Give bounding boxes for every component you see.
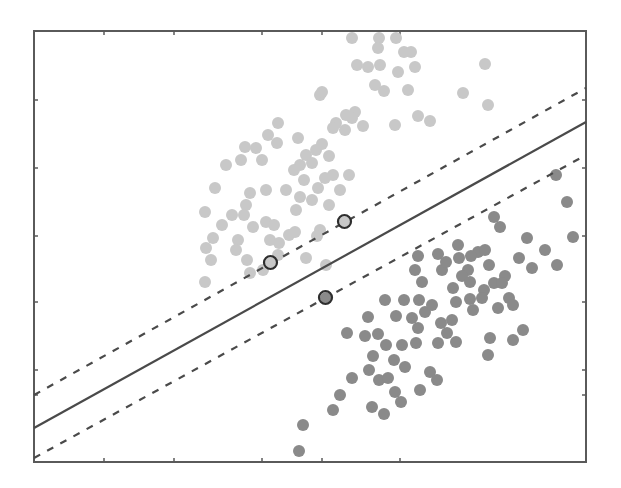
data-point — [239, 141, 251, 153]
data-point — [465, 250, 477, 262]
data-point — [339, 124, 351, 136]
data-point — [378, 85, 390, 97]
data-point — [238, 209, 250, 221]
data-point — [200, 242, 212, 254]
data-point — [362, 311, 374, 323]
data-point — [396, 339, 408, 351]
data-point — [482, 99, 494, 111]
data-point — [293, 445, 305, 457]
data-point — [323, 150, 335, 162]
data-point — [268, 219, 280, 231]
data-point — [316, 86, 328, 98]
data-point — [244, 187, 256, 199]
data-point — [366, 401, 378, 413]
margin-upper — [34, 88, 586, 395]
data-point — [346, 32, 358, 44]
data-point — [378, 408, 390, 420]
data-point — [452, 239, 464, 251]
data-point — [483, 259, 495, 271]
data-point — [357, 120, 369, 132]
data-point — [297, 419, 309, 431]
data-point — [334, 184, 346, 196]
class-light-points — [199, 32, 494, 288]
data-point — [409, 61, 421, 73]
data-point — [440, 256, 452, 268]
svm-scatter-chart — [0, 0, 621, 488]
data-point — [507, 299, 519, 311]
data-point — [431, 374, 443, 386]
data-point — [482, 349, 494, 361]
data-point — [539, 244, 551, 256]
data-point — [216, 219, 228, 231]
data-point — [359, 330, 371, 342]
data-point — [327, 404, 339, 416]
data-point — [372, 328, 384, 340]
data-point — [323, 199, 335, 211]
data-point — [388, 354, 400, 366]
plot-frame — [34, 31, 586, 462]
data-point — [412, 110, 424, 122]
data-point — [273, 237, 285, 249]
data-point — [272, 117, 284, 129]
data-point — [406, 312, 418, 324]
data-point — [412, 322, 424, 334]
data-point — [424, 115, 436, 127]
data-point — [395, 396, 407, 408]
data-point — [513, 252, 525, 264]
data-point — [390, 310, 402, 322]
data-point — [260, 184, 272, 196]
data-point — [464, 276, 476, 288]
data-point — [379, 294, 391, 306]
data-point — [205, 254, 217, 266]
data-point — [494, 221, 506, 233]
axis-ticks — [34, 31, 586, 462]
data-point — [561, 196, 573, 208]
data-point — [457, 87, 469, 99]
data-point — [435, 317, 447, 329]
data-point — [306, 194, 318, 206]
data-point — [432, 337, 444, 349]
data-point — [226, 209, 238, 221]
data-point — [362, 61, 374, 73]
data-point — [294, 191, 306, 203]
axes-box — [34, 31, 586, 462]
data-point — [327, 122, 339, 134]
data-point — [464, 293, 476, 305]
data-point — [241, 254, 253, 266]
data-point — [409, 264, 421, 276]
data-point — [392, 66, 404, 78]
data-point — [207, 232, 219, 244]
data-point — [327, 169, 339, 181]
data-point — [374, 59, 386, 71]
data-point — [521, 232, 533, 244]
data-point — [507, 334, 519, 346]
data-point — [367, 350, 379, 362]
data-point — [334, 389, 346, 401]
data-point — [340, 109, 352, 121]
data-point — [312, 182, 324, 194]
data-point — [300, 252, 312, 264]
data-point — [235, 154, 247, 166]
data-point — [517, 324, 529, 336]
data-point — [476, 292, 488, 304]
data-point — [271, 137, 283, 149]
data-point — [484, 332, 496, 344]
data-point — [402, 84, 414, 96]
data-point — [479, 244, 491, 256]
data-point — [399, 361, 411, 373]
data-point — [372, 42, 384, 54]
data-point — [298, 174, 310, 186]
data-point — [441, 327, 453, 339]
data-point — [416, 276, 428, 288]
data-point — [316, 138, 328, 150]
data-point — [256, 154, 268, 166]
class-dark-points — [293, 169, 579, 457]
data-point — [453, 252, 465, 264]
data-point — [479, 58, 491, 70]
data-point — [526, 262, 538, 274]
data-point — [247, 221, 259, 233]
data-point — [398, 294, 410, 306]
data-point — [410, 337, 422, 349]
data-point — [414, 384, 426, 396]
data-point — [199, 206, 211, 218]
